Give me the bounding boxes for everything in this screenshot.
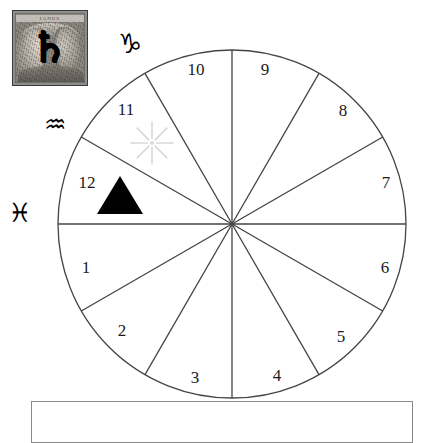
- wheel-spoke: [232, 73, 319, 224]
- sun-starburst-icon: [129, 120, 175, 166]
- wheel-spokes: [58, 50, 406, 398]
- starburst-ray: [155, 128, 167, 140]
- house-number-11: 11: [118, 100, 134, 119]
- house-number-5: 5: [337, 327, 346, 346]
- house-number-1: 1: [82, 258, 91, 277]
- house-number-7: 7: [382, 173, 391, 192]
- wheel-spoke: [145, 224, 232, 375]
- house-number-2: 2: [118, 321, 127, 340]
- answer-box[interactable]: [31, 401, 413, 443]
- house-number-8: 8: [339, 101, 348, 120]
- house-number-3: 3: [191, 368, 200, 387]
- starburst-ray: [137, 128, 149, 140]
- wheel-spoke: [232, 224, 383, 311]
- house-number-12: 12: [79, 173, 96, 192]
- wheel-spoke: [232, 137, 383, 224]
- wheel-spoke: [81, 224, 232, 311]
- wheel-spoke: [232, 224, 319, 375]
- house-number-9: 9: [261, 60, 270, 79]
- starburst-ray: [137, 146, 149, 158]
- house-number-6: 6: [381, 258, 390, 277]
- house-number-10: 10: [188, 60, 205, 79]
- black-triangle-icon: [97, 176, 143, 214]
- saturn-symbol-icon: ♄: [30, 27, 68, 69]
- starburst-ray: [155, 146, 167, 158]
- house-number-4: 4: [273, 366, 282, 385]
